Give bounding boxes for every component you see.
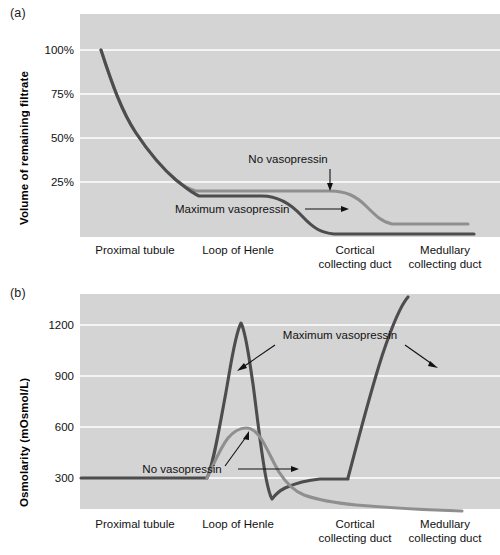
chart-b-osmolarity: 1200 900 600 300 Maximum vasopressin No … <box>0 280 500 555</box>
annotation-maximum-vasopressin-b: Maximum vasopressin <box>283 329 397 341</box>
x-category-medullary-collecting-duct-a: Medullary <box>420 244 470 256</box>
figure-panel-a: (a) Volume of remaining filtrate 100% 75… <box>0 0 500 280</box>
x-category-cortical-collecting-duct-a-line2: collecting duct <box>319 258 393 270</box>
y-tick-label-50: 50% <box>51 132 74 144</box>
y-tick-label-25: 25% <box>51 176 74 188</box>
x-category-proximal-tubule-b: Proximal tubule <box>95 518 174 530</box>
y-tick-label-900: 900 <box>55 370 74 382</box>
annotation-no-vasopressin-b: No vasopressin <box>142 463 221 475</box>
x-category-loop-of-henle-a: Loop of Henle <box>202 244 274 256</box>
x-category-medullary-collecting-duct-a-line2: collecting duct <box>409 258 483 270</box>
x-category-cortical-collecting-duct-b: Cortical <box>336 518 375 530</box>
x-category-proximal-tubule-a: Proximal tubule <box>95 244 174 256</box>
y-tick-label-1200: 1200 <box>48 319 74 331</box>
x-category-cortical-collecting-duct-a: Cortical <box>336 244 375 256</box>
chart-a-volume-remaining-filtrate: 100% 75% 50% 25% No vasopressin Maximum … <box>0 0 500 280</box>
figure-panel-b: (b) Osmolarity (mOsmol/L) 1200 900 600 3… <box>0 280 500 555</box>
annotation-no-vasopressin-a: No vasopressin <box>248 153 327 165</box>
x-category-medullary-collecting-duct-b: Medullary <box>420 518 470 530</box>
annotation-maximum-vasopressin-a: Maximum vasopressin <box>175 203 289 215</box>
y-tick-label-75: 75% <box>51 88 74 100</box>
x-category-medullary-collecting-duct-b-line2: collecting duct <box>409 532 483 544</box>
y-tick-label-100: 100% <box>45 44 74 56</box>
x-category-loop-of-henle-b: Loop of Henle <box>202 518 274 530</box>
x-category-cortical-collecting-duct-b-line2: collecting duct <box>319 532 393 544</box>
y-tick-label-300: 300 <box>55 472 74 484</box>
y-tick-label-600: 600 <box>55 421 74 433</box>
